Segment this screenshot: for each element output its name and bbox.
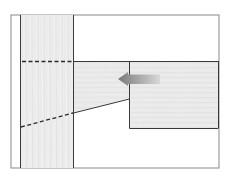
horizontal-rail — [129, 62, 218, 129]
vertical-post — [20, 15, 73, 168]
joint-diagram — [0, 0, 229, 183]
